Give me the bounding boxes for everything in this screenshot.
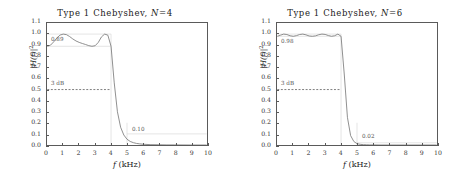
x-tick-label: 1	[56, 149, 68, 156]
y-tick-label: 0.2	[261, 118, 271, 125]
x-tick-label: 9	[416, 149, 428, 156]
y-tick-label: 1.0	[261, 28, 271, 35]
x-tick-mark	[208, 143, 209, 146]
x-tick-label: 2	[302, 149, 314, 156]
y-tick-mark	[276, 78, 279, 79]
plot-svg-right	[277, 23, 437, 145]
chart-title-right-value: =6	[389, 8, 403, 18]
reference-lines-right	[277, 34, 436, 145]
x-tick-mark	[341, 143, 342, 146]
x-tick-mark	[422, 143, 423, 146]
y-tick-label: 1.1	[261, 17, 271, 24]
chart-title-left-prefix: Type 1 Chebyshev,	[57, 8, 151, 18]
y-tick-label: 0.4	[261, 96, 271, 103]
annotation-ripple-floor-right: 0.98	[281, 38, 293, 44]
y-tick-label: 0.7	[261, 62, 271, 69]
x-tick-label: 8	[170, 149, 182, 156]
x-tick-label: 3	[319, 149, 331, 156]
x-tick-mark	[143, 143, 144, 146]
y-tick-mark	[276, 90, 279, 91]
y-tick-mark	[46, 135, 49, 136]
panel-chebyshev-n6: Type 1 Chebyshev, N=6 |H(f)|2 0.98 3 dB …	[230, 0, 460, 182]
x-axis-label-right-unit: (kHz)	[346, 160, 371, 169]
y-tick-mark	[46, 22, 49, 23]
x-tick-mark	[389, 143, 390, 146]
y-tick-label: 0.6	[261, 73, 271, 80]
y-tick-label: 0.5	[261, 85, 271, 92]
y-tick-label: 1.0	[31, 28, 41, 35]
x-tick-label: 0	[270, 149, 282, 156]
x-tick-mark	[192, 143, 193, 146]
plot-area-left: 0.89 3 dB 0.10	[46, 22, 208, 146]
y-tick-mark	[46, 33, 49, 34]
x-axis-label-left: f (kHz)	[46, 160, 208, 169]
y-tick-label: 0.0	[261, 141, 271, 148]
x-axis-label-right: f (kHz)	[276, 160, 438, 169]
x-tick-mark	[357, 143, 358, 146]
x-tick-label: 4	[335, 149, 347, 156]
y-tick-label: 0.1	[261, 130, 271, 137]
y-tick-label: 1.1	[31, 17, 41, 24]
y-tick-mark	[46, 56, 49, 57]
x-tick-mark	[373, 143, 374, 146]
y-tick-mark	[276, 101, 279, 102]
x-tick-label: 2	[72, 149, 84, 156]
y-tick-label: 0.1	[31, 130, 41, 137]
annotation-ripple-floor-left: 0.89	[51, 36, 63, 42]
x-tick-mark	[62, 143, 63, 146]
y-tick-mark	[46, 78, 49, 79]
x-tick-label: 1	[286, 149, 298, 156]
x-tick-mark	[78, 143, 79, 146]
y-tick-mark	[46, 67, 49, 68]
x-tick-mark	[292, 143, 293, 146]
x-tick-label: 9	[186, 149, 198, 156]
y-tick-label: 0.3	[261, 107, 271, 114]
y-tick-mark	[276, 33, 279, 34]
annotation-half-power-right: 3 dB	[281, 80, 294, 86]
y-tick-label: 0.9	[261, 40, 271, 47]
x-tick-label: 7	[153, 149, 165, 156]
x-tick-label: 5	[351, 149, 363, 156]
x-tick-mark	[308, 143, 309, 146]
y-tick-label: 0.0	[31, 141, 41, 148]
y-tick-mark	[276, 112, 279, 113]
chart-title-right-symbol: N	[381, 8, 389, 18]
y-tick-mark	[276, 56, 279, 57]
y-tick-mark	[276, 45, 279, 46]
y-tick-label: 0.6	[31, 73, 41, 80]
x-tick-mark	[176, 143, 177, 146]
x-tick-label: 5	[121, 149, 133, 156]
x-tick-mark	[127, 143, 128, 146]
chart-title-left-symbol: N	[151, 8, 159, 18]
x-axis-label-left-unit: (kHz)	[116, 160, 141, 169]
chart-title-left-value: =4	[159, 8, 173, 18]
y-tick-mark	[46, 45, 49, 46]
x-tick-label: 8	[400, 149, 412, 156]
plot-area-right: 0.98 3 dB 0.02	[276, 22, 438, 146]
y-tick-label: 0.7	[31, 62, 41, 69]
x-tick-label: 0	[40, 149, 52, 156]
y-tick-mark	[46, 112, 49, 113]
y-tick-mark	[276, 135, 279, 136]
y-tick-label: 0.8	[31, 51, 41, 58]
y-tick-label: 0.9	[31, 40, 41, 47]
x-tick-label: 3	[89, 149, 101, 156]
chart-title-right-prefix: Type 1 Chebyshev,	[287, 8, 381, 18]
y-tick-mark	[276, 67, 279, 68]
x-tick-label: 10	[432, 149, 444, 156]
y-tick-mark	[276, 146, 279, 147]
plot-svg-left	[47, 23, 207, 145]
annotation-half-power-left: 3 dB	[51, 80, 64, 86]
annotation-stopband-right: 0.02	[362, 133, 374, 139]
x-tick-label: 7	[383, 149, 395, 156]
y-tick-label: 0.3	[31, 107, 41, 114]
reference-lines-left	[47, 34, 206, 145]
y-tick-label: 0.4	[31, 96, 41, 103]
annotation-stopband-left: 0.10	[132, 126, 144, 132]
y-tick-mark	[276, 123, 279, 124]
y-tick-mark	[46, 101, 49, 102]
x-tick-mark	[325, 143, 326, 146]
y-tick-mark	[46, 123, 49, 124]
x-tick-label: 6	[137, 149, 149, 156]
x-tick-label: 10	[202, 149, 214, 156]
